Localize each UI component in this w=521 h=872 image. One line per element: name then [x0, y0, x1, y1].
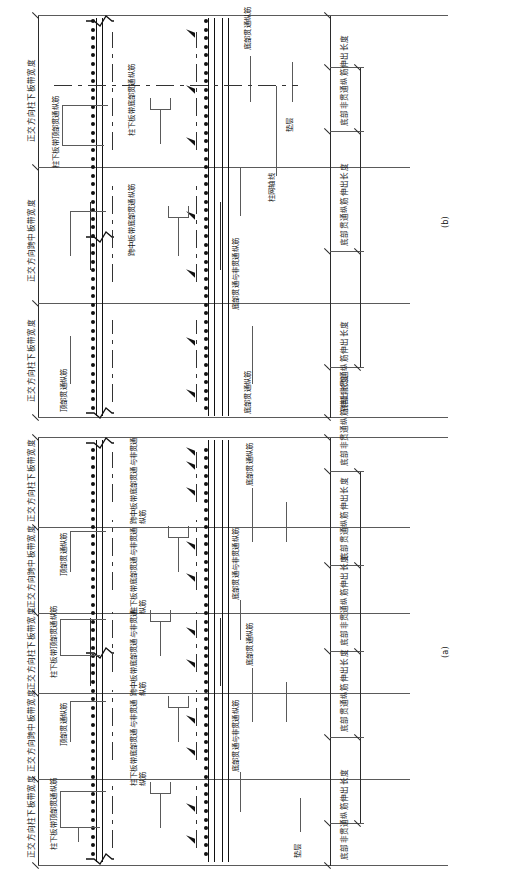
rebar-section-dot: [204, 508, 208, 512]
rebar-end-hook: [186, 487, 195, 496]
rebar-end-hook: [186, 541, 195, 550]
leader-line: [188, 526, 189, 538]
rebar-section-dot: [204, 286, 208, 290]
callout-cushion-layer: 垫层: [294, 844, 303, 858]
dim-label-bottom-non-through-ext: 底部非贯通纵筋伸出长度: [338, 321, 349, 412]
rebar-end-hook: [186, 337, 195, 346]
rebar-section-dot: [204, 105, 208, 109]
bottom-through-bar-run: [196, 690, 197, 760]
rebar-section-dot: [91, 191, 95, 195]
rebar-section-dot: [204, 637, 208, 641]
leader-line: [240, 772, 241, 812]
cushion-layer-bottom-line: [228, 440, 229, 862]
rebar-section-dot: [91, 217, 95, 221]
leader-line: [70, 531, 106, 532]
rebar-section-dot: [91, 775, 95, 779]
leader-line: [240, 600, 241, 640]
top-through-bar-run: [112, 690, 113, 760]
rebar-section-dot: [204, 465, 208, 469]
dim-ext-a1: [38, 779, 410, 780]
bottom-through-bar-run: [196, 784, 197, 848]
leader-line: [62, 145, 104, 146]
rebar-section-dot: [91, 96, 95, 100]
dim-label-bottom-through-ext: 底部贯通纵筋伸出长度: [338, 649, 349, 732]
leader-line: [60, 619, 106, 620]
rebar-section-dot: [91, 680, 95, 684]
rebar-section-dot: [204, 775, 208, 779]
rebar-section-dot: [204, 448, 208, 452]
top-through-bar-run: [112, 32, 113, 150]
rebar-section-dot: [204, 577, 208, 581]
rebar-section-dot: [204, 88, 208, 92]
rebar-section-dot: [91, 818, 95, 822]
bottom-through-bar-run: [196, 32, 197, 150]
leader-line: [168, 526, 169, 538]
callout-bottom-through-bars: 底部贯通纵筋: [246, 623, 255, 666]
rebar-section-dot: [204, 706, 208, 710]
rebar-section-dot: [91, 406, 95, 410]
rebar-section-dot: [204, 320, 208, 324]
rebar-section-dot: [91, 628, 95, 632]
dim-label-column-strip-width: 正交方向柱下板带宽度: [25, 59, 36, 142]
rebar-section-dot: [204, 406, 208, 410]
rebar-section-dot: [91, 740, 95, 744]
leader-line: [150, 109, 170, 110]
callout-top-through-bars: 顶部贯通纵筋: [60, 703, 69, 746]
leader-line: [150, 621, 170, 622]
leader-line: [170, 98, 171, 110]
rebar-section-dot: [91, 542, 95, 546]
rebar-section-dot: [91, 714, 95, 718]
leader-line: [150, 98, 151, 110]
leader-line: [252, 668, 253, 722]
slab-bottom-cover-line: [208, 440, 209, 862]
rebar-section-dot: [204, 277, 208, 281]
leader-line: [250, 56, 251, 102]
rebar-end-hook: [186, 659, 195, 668]
callout-top-through-bars: 顶部贯通纵筋: [60, 369, 69, 412]
rebar-section-dot: [91, 88, 95, 92]
rebar-section-dot: [91, 200, 95, 204]
rebar-section-dot: [91, 277, 95, 281]
cushion-layer-line: [222, 440, 223, 862]
rebar-section-dot: [204, 835, 208, 839]
slab-top-face: [96, 18, 97, 416]
rebar-section-dot: [91, 568, 95, 572]
rebar-section-dot: [91, 53, 95, 57]
dim-line-bottom-inner-a: [360, 472, 361, 824]
callout-bottom-through-bars: 底部贯通纵筋: [246, 443, 255, 486]
rebar-end-hook: [186, 461, 195, 470]
bottom-through-bar-run: [196, 520, 197, 590]
callout-middle-strip-bottom-bars: 跨中板带底部贯通与非贯通纵筋: [130, 434, 147, 524]
rebar-section-dot: [91, 354, 95, 358]
dim-line-bottom-outer-b: [330, 16, 331, 418]
rebar-section-dot: [91, 637, 95, 641]
rebar-section-dot: [204, 534, 208, 538]
rebar-end-hook: [186, 627, 195, 636]
callout-bottom-through-and-non-through: 底部贯通与非贯通纵筋: [232, 238, 241, 310]
leader-line: [160, 110, 161, 144]
dim-ext-a2: [38, 693, 410, 694]
leader-line: [60, 620, 61, 656]
rebar-end-hook: [186, 85, 195, 94]
leader-line: [168, 537, 188, 538]
rebar-end-hook: [186, 269, 195, 278]
leader-line: [286, 682, 287, 722]
rebar-section-dot: [91, 286, 95, 290]
callout-column-strip-top-bars: 柱下板带顶部贯通纵筋: [52, 96, 61, 168]
rebar-section-dot: [91, 157, 95, 161]
break-symbol-left: [86, 400, 118, 426]
rebar-section-dot: [204, 689, 208, 693]
drawing-sheet: 正交方向柱下板带宽度 正交方向跨中板带宽度 正交方向柱下板带宽度 正交方向跨中板…: [0, 0, 521, 872]
rebar-section-dot: [204, 62, 208, 66]
leader-line: [240, 168, 241, 216]
top-through-bar-run: [112, 452, 113, 502]
rebar-section-dot: [91, 380, 95, 384]
leader-line: [60, 791, 106, 792]
rebar-section-dot: [91, 783, 95, 787]
dim-label-column-strip-width: 正交方向柱下板带宽度: [25, 775, 36, 858]
rebar-section-dot: [91, 71, 95, 75]
rebar-section-dot: [91, 303, 95, 307]
rebar-section-dot: [204, 28, 208, 32]
callout-top-through-bars: 顶部贯通纵筋: [60, 533, 69, 576]
rebar-section-dot: [91, 585, 95, 589]
